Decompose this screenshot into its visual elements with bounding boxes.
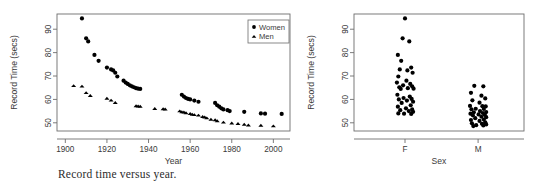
data-point-men (271, 124, 276, 127)
data-point-m (477, 101, 481, 105)
data-point-women (138, 87, 142, 91)
data-point-men (235, 122, 240, 125)
panel-record-time-versus-year: 5060708090Record Time (secs)190019201940… (0, 0, 292, 190)
data-point-men (71, 84, 76, 87)
y-tick-label: 60 (342, 94, 351, 104)
y-tick-label: 90 (45, 24, 54, 34)
strip-plot-sex: 5060708090Record Time (secs)FMSex (292, 0, 558, 165)
panel-record-time-versus-sex: 5060708090Record Time (secs)FMSex Record… (292, 0, 558, 190)
data-point-f (395, 93, 399, 97)
data-point-f (405, 68, 409, 72)
data-point-m (472, 84, 476, 88)
data-point-f (401, 36, 405, 40)
data-point-f (398, 67, 402, 71)
data-point-men (258, 124, 263, 127)
data-point-f (409, 65, 413, 69)
x-tick-label: 2000 (264, 145, 283, 154)
data-point-women (188, 97, 192, 101)
data-point-m (469, 91, 473, 95)
data-point-men (196, 114, 201, 117)
data-point-women (192, 98, 196, 102)
data-point-f (407, 39, 411, 43)
data-point-women (259, 111, 263, 115)
data-point-m (483, 96, 487, 100)
data-point-f (409, 103, 413, 107)
data-point-women (242, 110, 246, 114)
data-point-m (481, 84, 485, 88)
legend-label-men: Men (259, 32, 274, 41)
caption-record-time-versus-year: Record time versus year. (58, 168, 177, 180)
data-point-women (113, 71, 117, 75)
data-point-women (196, 100, 200, 104)
data-point-f (399, 87, 403, 91)
x-tick-label: 1940 (139, 145, 158, 154)
y-tick-label: 70 (45, 71, 54, 81)
data-point-men (246, 123, 251, 126)
y-tick-label: 90 (342, 24, 351, 34)
data-point-men (113, 101, 118, 104)
data-point-men (242, 123, 247, 126)
data-point-women (105, 65, 109, 69)
data-point-women (92, 53, 96, 57)
data-point-women (263, 112, 267, 116)
data-point-women (221, 107, 225, 111)
data-point-f (399, 59, 403, 63)
y-axis-title: Record Time (secs) (306, 35, 316, 110)
data-point-men (221, 121, 226, 124)
x-tick-label: 1900 (56, 145, 75, 154)
data-point-f (396, 53, 400, 57)
data-point-men (152, 107, 157, 110)
data-point-men (88, 94, 93, 97)
data-point-f (401, 96, 405, 100)
data-point-women (115, 74, 119, 78)
data-point-women (97, 59, 101, 63)
x-tick-label-f: F (402, 145, 407, 154)
data-point-f (411, 71, 415, 75)
scatter-plot-year: 5060708090Record Time (secs)190019201940… (0, 0, 292, 165)
legend-marker-women-icon (252, 25, 256, 29)
data-point-f (395, 80, 399, 84)
y-tick-label: 50 (45, 118, 54, 128)
data-point-f (397, 97, 401, 101)
group-f (395, 16, 416, 116)
data-point-m (479, 94, 483, 98)
series-men (71, 84, 276, 127)
data-point-f (409, 112, 413, 116)
x-tick-label: 1960 (181, 145, 200, 154)
figure-container: 5060708090Record Time (secs)190019201940… (0, 0, 558, 190)
x-tick-label-m: M (475, 145, 482, 154)
y-tick-label: 80 (342, 48, 351, 58)
data-point-m (481, 123, 485, 127)
x-axis-title: Sex (432, 156, 448, 165)
data-point-f (396, 111, 400, 115)
data-point-women (86, 39, 90, 43)
data-point-men (109, 99, 114, 102)
x-tick-label: 1980 (223, 145, 242, 154)
data-point-men (229, 122, 234, 125)
legend-label-women: Women (259, 23, 285, 32)
data-point-f (411, 87, 415, 91)
data-point-women (228, 109, 232, 113)
y-tick-label: 50 (342, 118, 351, 128)
data-point-f (396, 74, 400, 78)
y-tick-label: 70 (342, 71, 351, 81)
data-point-f (402, 112, 406, 116)
group-m (468, 84, 488, 128)
data-point-m (471, 124, 475, 128)
data-point-f (406, 86, 410, 90)
data-point-m (470, 98, 474, 102)
data-point-f (404, 79, 408, 83)
data-point-men (84, 91, 89, 94)
data-point-f (411, 100, 415, 104)
data-point-men (104, 97, 109, 100)
data-point-m (473, 116, 477, 120)
data-point-women (280, 112, 284, 116)
data-point-f (401, 83, 405, 87)
y-tick-label: 60 (45, 94, 54, 104)
y-tick-label: 80 (45, 48, 54, 58)
data-point-f (405, 98, 409, 102)
data-point-f (396, 105, 400, 109)
data-point-f (403, 16, 407, 20)
x-tick-label: 1920 (98, 145, 117, 154)
data-point-men (79, 85, 84, 88)
